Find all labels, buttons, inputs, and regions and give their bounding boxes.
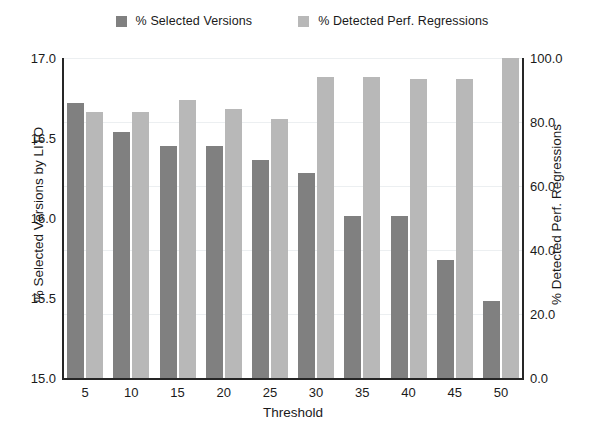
plot-area: [62, 58, 524, 378]
y-axis-right-tick-label: 0.0: [530, 371, 548, 386]
bar-selected-versions: [206, 146, 223, 378]
bar-group: [252, 58, 288, 378]
bar-selected-versions: [344, 216, 361, 378]
bar-group: [437, 58, 473, 378]
y-axis-left-tick-label: 17.0: [31, 51, 56, 66]
legend-swatch-icon-selected-versions: [116, 16, 127, 27]
legend-label-selected-versions: % Selected Versions: [136, 14, 253, 28]
bar-detected-regressions: [502, 58, 519, 378]
bar-selected-versions: [67, 103, 84, 378]
bar-group: [344, 58, 380, 378]
bar-selected-versions: [437, 260, 454, 378]
legend-swatch-icon-detected-regressions: [298, 16, 309, 27]
bar-group: [67, 58, 103, 378]
x-axis-tick-label: 45: [447, 385, 461, 400]
x-axis-tick-label: 30: [309, 385, 323, 400]
x-axis-tick-label: 5: [81, 385, 88, 400]
bar-group: [160, 58, 196, 378]
legend-entry-detected-regressions: % Detected Perf. Regressions: [298, 14, 488, 28]
x-axis-title: Threshold: [62, 405, 524, 420]
y-axis-left-tick-label: 15.0: [31, 371, 56, 386]
y-axis-right-title: % Detected Perf. Regressions: [549, 95, 564, 335]
bar-detected-regressions: [410, 79, 427, 378]
bar-group: [113, 58, 149, 378]
chart-legend: % Selected Versions % Detected Perf. Reg…: [0, 8, 604, 34]
legend-entry-selected-versions: % Selected Versions: [116, 14, 253, 28]
bar-selected-versions: [298, 173, 315, 378]
legend-label-detected-regressions: % Detected Perf. Regressions: [318, 14, 488, 28]
bar-selected-versions: [483, 301, 500, 378]
x-axis-tick-label: 25: [263, 385, 277, 400]
bar-selected-versions: [391, 216, 408, 378]
bar-detected-regressions: [225, 109, 242, 378]
bar-group: [391, 58, 427, 378]
bar-detected-regressions: [363, 77, 380, 378]
bar-selected-versions: [252, 160, 269, 378]
bar-detected-regressions: [456, 79, 473, 378]
x-axis-tick-label: 15: [170, 385, 184, 400]
bar-series-container: [62, 58, 524, 378]
y-axis-right-tick-label: 100.0: [530, 51, 563, 66]
y-axis-left-title: % Selected Versions by LITO: [31, 95, 46, 335]
bar-selected-versions: [160, 146, 177, 378]
bar-selected-versions: [113, 132, 130, 378]
x-axis-tick-label: 20: [216, 385, 230, 400]
bar-detected-regressions: [317, 77, 334, 378]
x-axis-tick-label: 40: [401, 385, 415, 400]
bar-detected-regressions: [132, 112, 149, 378]
bar-chart-figure: % Selected Versions % Detected Perf. Reg…: [0, 0, 604, 426]
bar-group: [298, 58, 334, 378]
x-axis-ticks: 5101520253035404550: [62, 385, 524, 405]
bar-detected-regressions: [179, 100, 196, 378]
bar-group: [206, 58, 242, 378]
x-axis-tick-label: 35: [355, 385, 369, 400]
bar-group: [483, 58, 519, 378]
x-axis-line: [62, 378, 524, 380]
x-axis-tick-label: 10: [124, 385, 138, 400]
bar-detected-regressions: [86, 112, 103, 378]
x-axis-tick-label: 50: [494, 385, 508, 400]
bar-detected-regressions: [271, 119, 288, 378]
